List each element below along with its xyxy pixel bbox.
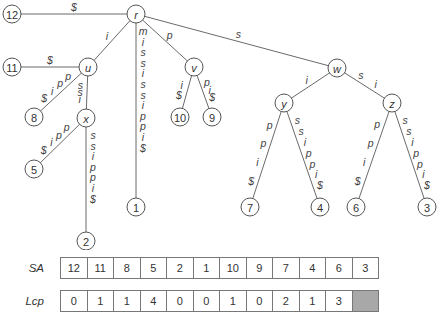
edge-label-char: $ xyxy=(89,193,96,205)
sa-cell: 6 xyxy=(326,258,353,278)
lcp-cell: 2 xyxy=(273,291,300,311)
leaf-node-5: 5 xyxy=(25,160,43,178)
sa-cell: 10 xyxy=(220,258,247,278)
edge-label-char: p xyxy=(373,118,380,130)
lcp-cell: 1 xyxy=(88,291,115,311)
node-label: 3 xyxy=(424,202,430,214)
sa-cell: 4 xyxy=(300,258,327,278)
lcp-cell: 0 xyxy=(167,291,194,311)
edge-label-char: $ xyxy=(247,175,254,187)
suffix-array-label: SA xyxy=(0,262,60,274)
sa-cell: 11 xyxy=(88,258,115,278)
leaf-node-10: 10 xyxy=(171,108,189,126)
edge-label-char: p xyxy=(367,137,374,149)
edge-label-char: p xyxy=(64,70,71,82)
edge-label-char: p xyxy=(266,119,273,131)
lcp-array-label: Lcp xyxy=(0,295,60,307)
edge-label-char: s xyxy=(358,69,364,81)
node-label: z xyxy=(388,98,395,110)
sa-cell: 12 xyxy=(61,258,88,278)
edge-labels: $imississippi$ps$ppi$ssippi$ssippi$i$pi$… xyxy=(40,1,430,205)
leaf-node-7: 7 xyxy=(241,198,259,216)
edge-label-char: p xyxy=(55,129,62,141)
lcp-cell: 3 xyxy=(326,291,353,311)
node-label: w xyxy=(333,63,342,75)
node-label: 5 xyxy=(31,164,37,176)
lcp-array-cells: 01140010213 xyxy=(60,290,379,312)
edge-label-char: i xyxy=(256,156,259,168)
lcp-cell: 1 xyxy=(300,291,327,311)
node-label: 10 xyxy=(174,112,186,124)
edge-label-char: $ xyxy=(423,179,430,191)
internal-node-y: y xyxy=(275,94,293,112)
node-label: u xyxy=(85,62,91,74)
edge-label-char: p xyxy=(166,29,173,41)
edge-label-char: s xyxy=(236,28,242,40)
edge-label-char: i xyxy=(305,74,308,86)
lcp-cell: 0 xyxy=(194,291,221,311)
node-label: 2 xyxy=(83,236,89,248)
internal-node-z: z xyxy=(383,94,401,112)
sa-cell: 8 xyxy=(114,258,141,278)
lcp-cell: 0 xyxy=(61,291,88,311)
lcp-cell: 0 xyxy=(247,291,274,311)
lcp-cell xyxy=(353,291,380,311)
suffix-tree: $imississippi$ps$ppi$ssippi$ssippi$i$pi$… xyxy=(0,0,442,250)
internal-node-u: u xyxy=(79,58,97,76)
lcp-array-row: Lcp 01140010213 xyxy=(0,290,379,312)
edge-r-u xyxy=(88,14,136,67)
edge-label-char: i xyxy=(363,156,366,168)
sa-cell: 7 xyxy=(273,258,300,278)
internal-node-w: w xyxy=(328,59,346,77)
edge-label-char: $ xyxy=(40,92,47,104)
lcp-cell: 4 xyxy=(141,291,168,311)
node-label: 6 xyxy=(353,202,359,214)
edge-label-char: i xyxy=(375,78,378,90)
edge-label-char: $ xyxy=(70,1,77,13)
sa-cell: 3 xyxy=(353,258,380,278)
leaf-node-8: 8 xyxy=(25,108,43,126)
node-label: 1 xyxy=(133,202,139,214)
edge-y-4 xyxy=(284,103,320,207)
suffix-array-cells: 121185211097463 xyxy=(60,257,379,279)
leaf-node-2: 2 xyxy=(77,232,95,250)
edge-label-char: p xyxy=(63,121,70,133)
leaf-node-11: 11 xyxy=(3,58,21,76)
internal-node-v: v xyxy=(185,58,203,76)
edge-label-char: $ xyxy=(139,142,146,154)
leaf-node-9: 9 xyxy=(203,108,221,126)
edge-label-char: i xyxy=(106,30,109,42)
leaf-node-12: 12 xyxy=(3,5,21,23)
edge-w-z xyxy=(337,68,392,103)
node-label: 7 xyxy=(247,202,253,214)
node-label: 9 xyxy=(209,112,215,124)
edge-label-char: $ xyxy=(46,54,53,66)
leaf-node-3: 3 xyxy=(418,198,436,216)
node-label: 11 xyxy=(6,62,17,74)
edge-label-char: $ xyxy=(354,175,361,187)
internal-node-x: x xyxy=(77,109,95,127)
sa-cell: 9 xyxy=(247,258,274,278)
sa-cell: 5 xyxy=(141,258,168,278)
lcp-cell: 1 xyxy=(220,291,247,311)
edge-label-char: p xyxy=(56,77,63,89)
edge-label-char: p xyxy=(259,137,266,149)
leaf-node-1: 1 xyxy=(127,198,145,216)
edge-z-3 xyxy=(392,103,427,207)
sa-cell: 1 xyxy=(194,258,221,278)
edge-label-char: i xyxy=(50,136,53,148)
edge-label-char: i xyxy=(51,85,54,97)
lcp-cell: 1 xyxy=(114,291,141,311)
leaf-node-6: 6 xyxy=(347,198,365,216)
internal-node-r: r xyxy=(127,5,145,23)
node-label: 4 xyxy=(317,202,323,214)
edge-w-y xyxy=(284,68,337,103)
edge-label-char: $ xyxy=(175,89,182,101)
node-label: 8 xyxy=(31,112,37,124)
edge-label-char: $ xyxy=(208,91,215,103)
edge-label-char: $ xyxy=(316,179,323,191)
edge-label-char: $ xyxy=(40,144,47,156)
suffix-array-row: SA 121185211097463 xyxy=(0,257,379,279)
leaf-node-4: 4 xyxy=(311,198,329,216)
node-label: 12 xyxy=(6,9,18,21)
